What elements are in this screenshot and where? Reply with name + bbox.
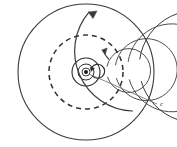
center-dot [84, 70, 88, 74]
figure-container: c [0, 0, 177, 147]
vortex-diagram: c [0, 0, 177, 147]
